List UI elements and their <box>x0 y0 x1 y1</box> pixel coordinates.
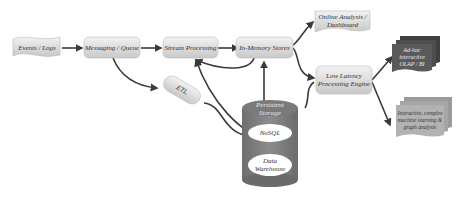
node-adhoc-olap: Ad-hoc interactive OLAP / BI <box>392 44 432 70</box>
edge-lowlatency-to-ml <box>372 82 390 125</box>
edge-inmemory-to-online <box>293 22 313 45</box>
edge-lowlatency-to-olap <box>372 57 392 80</box>
node-ml-graph: Interactive, complex machine learning & … <box>396 105 444 135</box>
node-stream-processing: Stream Processing <box>163 37 218 58</box>
node-online-analysis: Online Analysis / Dashboard <box>315 11 370 31</box>
node-nosql: NoSQL <box>248 125 292 141</box>
node-messaging-queue: Messaging / Queue <box>84 37 140 58</box>
node-in-memory-stores: In-Memory Stores <box>236 37 293 58</box>
edge-messaging-to-etl <box>113 58 157 88</box>
node-persistent-storage: Persistent Storage <box>246 100 294 118</box>
node-data-warehouse: Data Warehouse <box>248 155 292 175</box>
edge-inmemory-to-lowlatency <box>293 48 314 78</box>
edge-inmemory-to-stream <box>196 58 254 68</box>
node-events-logs: Events / Logs <box>13 40 61 56</box>
node-low-latency-engine: Low Latency Processing Engine <box>316 66 372 94</box>
edge-storage-to-lowlatency <box>305 82 314 108</box>
diagram-canvas <box>0 0 456 197</box>
